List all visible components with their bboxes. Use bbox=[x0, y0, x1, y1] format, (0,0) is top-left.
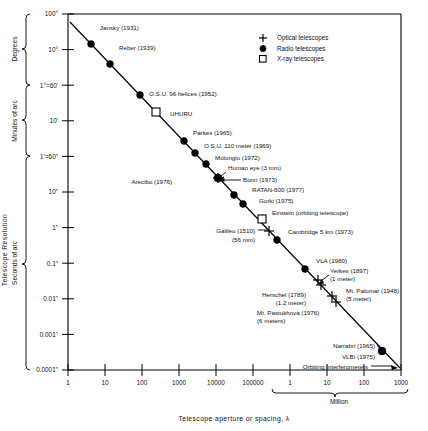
point-label: Yerkes (1897) bbox=[330, 267, 368, 274]
point-label: Arecibo (1976) bbox=[131, 178, 172, 185]
x-tick-label: 10 bbox=[101, 379, 109, 386]
point-label: Parkes (1965) bbox=[193, 129, 232, 136]
legend-item-optical: Optical telescopes bbox=[259, 34, 328, 42]
x-tick-label: 100 bbox=[137, 379, 148, 386]
y-tick-label: 10° bbox=[48, 46, 58, 53]
point-label: Reber (1939) bbox=[119, 44, 155, 51]
point-label: Molonglo (1972) bbox=[215, 154, 260, 161]
legend-label-optical: Optical telescopes bbox=[277, 34, 328, 42]
data-point bbox=[203, 161, 210, 168]
point-label: (56 mm) bbox=[232, 236, 255, 243]
point-label: Cambridge 5 km (1973) bbox=[288, 228, 353, 235]
point-label: VLA (1980) bbox=[316, 257, 347, 264]
y-tick-label: 1°=60' bbox=[40, 82, 58, 89]
point-label: O.S.U. 110 meter (1969) bbox=[204, 142, 271, 149]
point-label: (1 meter) bbox=[330, 275, 355, 282]
y-tick-label: 0.0001" bbox=[36, 366, 58, 373]
legend-label-radio: Radio telescopes bbox=[277, 45, 325, 53]
y-group-label-minutes: Minutes of arc bbox=[11, 100, 18, 142]
dot-icon bbox=[260, 45, 266, 51]
x-tick-label: 100 bbox=[359, 379, 370, 386]
seconds-brace bbox=[22, 156, 30, 370]
data-point bbox=[152, 108, 160, 116]
point-label: Mt. Pastukhova (1976) bbox=[257, 309, 319, 316]
chart-figure: 100° 10° 1°=60' 10' 1'=60" 10" 1" 0.1" 0… bbox=[0, 0, 428, 431]
orbiting-interferometers-leader bbox=[371, 365, 398, 370]
x-tick-label: 10000 bbox=[207, 379, 225, 386]
y-tick-label: 10" bbox=[49, 188, 58, 195]
data-point bbox=[240, 201, 247, 208]
chart-legend: Optical telescopes Radio telescopes X-ra… bbox=[259, 34, 328, 63]
data-point bbox=[274, 237, 281, 244]
data-point bbox=[192, 150, 199, 157]
x-axis-tick-labels: 1 10 100 1000 10000 100000 1 10 100 1000 bbox=[66, 379, 408, 386]
point-label: VLBI (1975) bbox=[342, 353, 375, 360]
point-label: Orbiting Interferometers bbox=[303, 363, 368, 370]
point-label: (6 meters) bbox=[257, 317, 285, 324]
telescope-resolution-chart: 100° 10° 1°=60' 10' 1'=60" 10" 1" 0.1" 0… bbox=[0, 0, 428, 431]
point-label: RATAN-600 (1977) bbox=[252, 186, 304, 193]
point-label: Human eye (3 mm) bbox=[228, 164, 281, 171]
y-group-label-seconds: Seconds of arc bbox=[11, 240, 18, 285]
point-label: Narrabri (1965) bbox=[333, 342, 375, 349]
y-tick-label: 0.01" bbox=[43, 295, 58, 302]
y-group-braces: Degrees Minutes of arc Seconds of arc Te… bbox=[1, 14, 30, 370]
point-label: (1.2 meter) bbox=[276, 299, 306, 306]
x-tick-label: 10 bbox=[323, 379, 331, 386]
point-label: Gorki (1975) bbox=[259, 197, 293, 204]
point-labels: Jansky (1931) Reber (1939) O.S.U. 96 hel… bbox=[100, 24, 399, 370]
legend-item-radio: Radio telescopes bbox=[260, 45, 325, 53]
point-label: Mt. Palomar (1948) bbox=[346, 287, 399, 294]
x-tick-label: 1000 bbox=[172, 379, 187, 386]
y-axis-tick-labels: 100° 10° 1°=60' 10' 1'=60" 10" 1" 0.1" 0… bbox=[36, 10, 58, 373]
data-point bbox=[137, 92, 144, 99]
square-icon bbox=[260, 56, 267, 63]
x-tick-label: 1 bbox=[66, 379, 70, 386]
point-label: Bonn (1973) bbox=[243, 176, 277, 183]
data-point bbox=[231, 192, 238, 199]
point-label: O.S.U. 96 helices (1952) bbox=[149, 90, 217, 97]
data-point bbox=[302, 266, 309, 273]
y-group-label-degrees: Degrees bbox=[11, 36, 19, 62]
y-tick-label: 0.1" bbox=[47, 260, 58, 267]
data-point bbox=[258, 215, 266, 223]
legend-item-xray: X-ray telescopes bbox=[260, 55, 324, 63]
y-tick-label: 10' bbox=[50, 117, 58, 124]
point-label: (5 meter) bbox=[346, 295, 371, 302]
million-brace-group: Million bbox=[272, 389, 408, 405]
million-brace bbox=[272, 389, 408, 397]
x-tick-label: 1000 bbox=[394, 379, 409, 386]
y-tick-label: 100° bbox=[45, 10, 59, 17]
y-tick-label: 1'=60" bbox=[40, 153, 58, 160]
x-axis-title: Telescope aperture or spacing, λ bbox=[178, 415, 289, 423]
data-point bbox=[181, 138, 188, 145]
point-label: Herschel (1789) bbox=[262, 291, 306, 298]
data-point bbox=[88, 41, 95, 48]
degrees-brace bbox=[22, 14, 30, 85]
minutes-brace bbox=[22, 85, 30, 156]
point-label: Jansky (1931) bbox=[100, 24, 139, 31]
data-point bbox=[107, 61, 114, 68]
x-tick-label: 1 bbox=[288, 379, 292, 386]
x-tick-label: 100000 bbox=[242, 379, 264, 386]
plus-icon bbox=[259, 34, 267, 42]
y-tick-label: 0.001" bbox=[40, 331, 58, 338]
point-label: UHURU bbox=[170, 110, 192, 117]
y-axis-title: Telescope Resolution bbox=[1, 214, 9, 287]
legend-label-xray: X-ray telescopes bbox=[277, 55, 324, 63]
y-tick-label: 1" bbox=[52, 224, 58, 231]
point-label: Galileo (1510) bbox=[216, 227, 255, 234]
point-label: Einstein (orbiting telescope) bbox=[272, 209, 348, 216]
million-label: Million bbox=[330, 398, 349, 405]
